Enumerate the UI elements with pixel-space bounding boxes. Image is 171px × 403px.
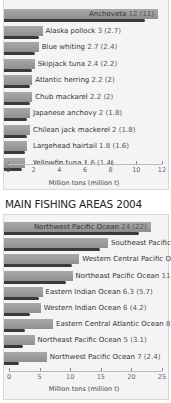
bar-label: Northwest Pacific Ocean 7 (2.4)	[50, 352, 161, 362]
bar-label: Alaska pollock 3 (2.7)	[46, 26, 121, 36]
bar-secondary	[4, 151, 25, 154]
bar-secondary	[4, 135, 27, 138]
bar-secondary	[4, 19, 145, 22]
bar	[4, 287, 43, 297]
bar-label: Atlantic herring 2.2 (2)	[35, 75, 115, 85]
bar-secondary	[4, 248, 100, 251]
bar-secondary	[4, 264, 72, 267]
bar-label: Chilean jack mackerel 2 (1.8)	[33, 125, 135, 135]
tick-label: 4	[57, 166, 61, 174]
x-axis-label: Million tons (million t)	[49, 385, 119, 393]
bar	[4, 319, 53, 329]
bar	[4, 92, 32, 102]
bar-secondary	[4, 345, 23, 348]
tick	[162, 161, 163, 164]
bar-secondary	[4, 85, 30, 88]
tick-label: 2	[32, 166, 36, 174]
species-chart-panel: Anchoveta 12 (11)Alaska pollock 3 (2.7)B…	[3, 0, 169, 190]
tick	[8, 161, 9, 164]
bar	[4, 59, 35, 69]
tick-label: 10	[132, 166, 140, 174]
bar-label: Northeast Pacific Ocean 11.2 (10.1)	[76, 271, 171, 281]
tick-label: 10	[66, 373, 74, 381]
tick	[111, 161, 112, 164]
tick-label: 15	[97, 373, 105, 381]
fishing-areas-chart-panel: Northwest Pacific Ocean 24 (22)Southeast…	[3, 214, 169, 400]
bar	[4, 303, 41, 313]
tick-label: 25	[158, 373, 166, 381]
tick-label: 20	[127, 373, 135, 381]
bar	[4, 352, 47, 362]
bar-secondary	[4, 102, 30, 105]
tick	[136, 161, 137, 164]
tick	[162, 368, 163, 371]
bar	[4, 26, 43, 36]
tick	[9, 368, 10, 371]
bar	[4, 125, 30, 135]
bar	[4, 108, 30, 118]
bar	[4, 254, 79, 264]
tick	[70, 368, 71, 371]
bar-secondary	[4, 313, 30, 316]
fishing-areas-title: MAIN FISHING AREAS 2004	[5, 198, 142, 210]
x-axis	[8, 164, 162, 165]
bar-secondary	[4, 232, 139, 235]
bar-secondary	[4, 362, 19, 365]
x-axis	[9, 371, 162, 372]
bar-label: Japanese anchovy 2 (1.8)	[33, 108, 122, 118]
bar-label: Blue whiting 2.7 (2.4)	[42, 42, 118, 52]
tick	[59, 161, 60, 164]
bar-label: Western Central Pacific Ocean 12.3 (11.1…	[82, 254, 171, 264]
bar-label: Yellowfin tuna 1.6 (1.4)	[33, 158, 114, 168]
tick-label: 0	[6, 166, 10, 174]
tick	[34, 161, 35, 164]
bar-secondary	[4, 69, 32, 72]
bar-secondary	[4, 118, 27, 121]
bar-label: Eastern Indian Ocean 6.3 (5.7)	[46, 287, 153, 297]
tick-label: 12	[158, 166, 166, 174]
bar	[4, 335, 35, 345]
tick	[101, 368, 102, 371]
bar	[4, 271, 73, 281]
bar-label: Largehead hairtail 1.8 (1.6)	[33, 141, 129, 151]
bar-label: Northwest Pacific Ocean 24 (22)	[34, 222, 147, 232]
bar-secondary	[4, 36, 39, 39]
bar-label: Eastern Central Atlantic Ocean 8 (3.5)	[56, 319, 171, 329]
x-axis-label: Million tons (million t)	[49, 179, 119, 187]
bar	[4, 42, 39, 52]
tick-label: 6	[83, 166, 87, 174]
bar	[4, 141, 27, 151]
bar-secondary	[4, 281, 66, 284]
bar	[4, 238, 108, 248]
tick-label: 0	[7, 373, 11, 381]
bar-label: Anchoveta 12 (11)	[89, 9, 154, 19]
tick	[131, 368, 132, 371]
tick-label: 8	[109, 166, 113, 174]
bar-label: Skipjack tuna 2.4 (2.2)	[38, 59, 117, 69]
bar-secondary	[4, 329, 25, 332]
bar-secondary	[4, 52, 35, 55]
bar	[4, 75, 32, 85]
tick	[85, 161, 86, 164]
tick-label: 5	[38, 373, 42, 381]
bar-label: Chub mackarel 2.2 (2)	[35, 92, 113, 102]
bar-secondary	[4, 297, 39, 300]
bar-label: Western Indian Ocean 6 (4.2)	[44, 303, 147, 313]
bar-label: Southeast Pacific Ocean 17 (15.7)	[111, 238, 171, 248]
tick	[40, 368, 41, 371]
bar-label: Northeast Pacific Ocean 5 (3.1)	[38, 335, 147, 345]
